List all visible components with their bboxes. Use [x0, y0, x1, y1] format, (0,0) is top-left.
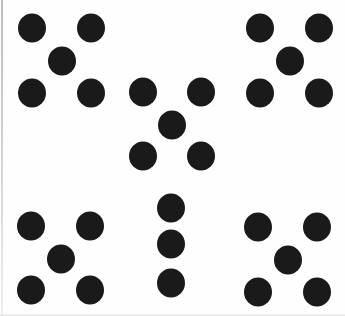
- dot: [244, 278, 272, 307]
- dot-group-bottom-right-x: [0, 0, 345, 316]
- dot: [244, 213, 272, 242]
- dot-pattern-canvas: [0, 0, 345, 316]
- dot: [303, 278, 331, 307]
- dot: [303, 213, 331, 242]
- dot: [274, 246, 302, 275]
